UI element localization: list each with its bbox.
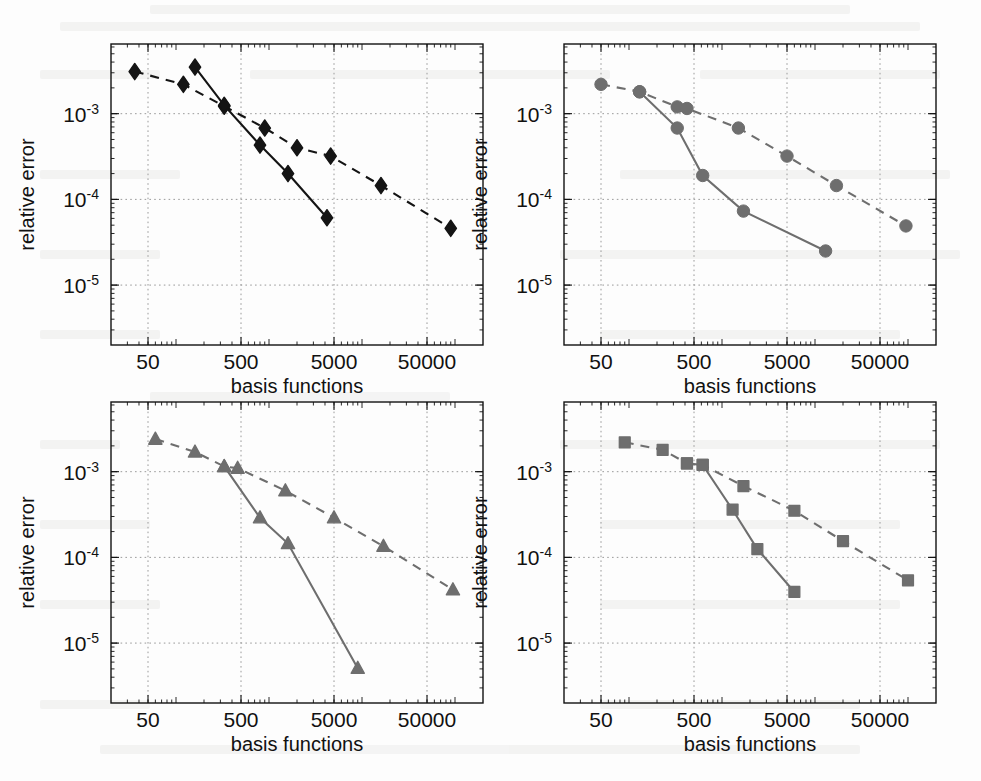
y-tick-label: 10-4 <box>63 544 99 569</box>
x-axis-label: basis functions <box>231 733 363 755</box>
data-point <box>903 575 914 586</box>
series-dashed <box>595 78 912 232</box>
series-path <box>155 439 453 590</box>
data-point <box>377 539 390 551</box>
y-tick-label: 10-5 <box>63 630 99 655</box>
y-tick-label: 10-4 <box>516 186 552 211</box>
data-point <box>789 587 800 598</box>
data-point <box>657 444 668 455</box>
data-point <box>218 460 231 472</box>
gridlines <box>564 44 936 345</box>
y-axis-label: relative error <box>16 496 38 609</box>
y-axis-label: relative error <box>469 496 491 609</box>
y-axis-label: relative error <box>16 138 38 251</box>
data-point <box>819 245 831 257</box>
x-tick-label: 5000 <box>764 708 811 731</box>
data-point <box>259 120 270 136</box>
series-path <box>601 84 906 226</box>
data-point <box>900 220 912 232</box>
x-axis-label: basis functions <box>684 733 816 755</box>
series-solid <box>682 458 800 597</box>
data-point <box>595 78 607 90</box>
gridlines <box>111 402 483 703</box>
data-point <box>325 148 336 164</box>
data-point <box>727 504 738 515</box>
y-tick-labels: 10-310-410-5 <box>63 101 99 297</box>
y-tick-labels: 10-310-410-5 <box>516 459 552 655</box>
series-path <box>640 92 826 251</box>
y-tick-labels: 10-310-410-5 <box>516 101 552 297</box>
y-tick-label: 10-5 <box>63 272 99 297</box>
data-point <box>327 511 340 523</box>
data-point <box>291 140 302 156</box>
series-path <box>224 466 358 668</box>
data-point <box>752 544 763 555</box>
y-tick-label: 10-5 <box>516 272 552 297</box>
y-tick-label: 10-3 <box>516 101 552 126</box>
x-tick-labels: 50500500050000 <box>136 708 456 731</box>
x-tick-label: 500 <box>223 708 258 731</box>
y-tick-labels: 10-310-410-5 <box>63 459 99 655</box>
series-dashed <box>129 63 456 236</box>
data-point <box>696 169 708 181</box>
data-point <box>633 86 645 98</box>
y-axis-label: relative error <box>469 138 491 251</box>
data-point <box>279 484 292 496</box>
data-point <box>149 432 162 444</box>
data-point <box>830 179 842 191</box>
y-tick-label: 10-5 <box>516 630 552 655</box>
data-point <box>697 459 708 470</box>
data-point <box>732 122 744 134</box>
x-tick-label: 50 <box>136 708 159 731</box>
x-tick-label: 50000 <box>851 708 909 731</box>
series-solid <box>633 86 831 258</box>
x-tick-labels: 50500500050000 <box>589 708 909 731</box>
data-point <box>375 177 386 193</box>
x-tick-label: 500 <box>676 708 711 731</box>
data-point <box>178 76 189 92</box>
data-point <box>619 437 630 448</box>
series-dashed <box>619 437 913 586</box>
data-point <box>737 205 749 217</box>
data-point <box>789 505 800 516</box>
data-point <box>781 150 793 162</box>
chart-panel-bottom-left: 5050050005000010-310-410-5basis function… <box>0 358 528 781</box>
series-solid <box>218 460 365 674</box>
data-point <box>129 63 140 79</box>
x-tick-label: 50 <box>589 708 612 731</box>
y-tick-label: 10-3 <box>63 459 99 484</box>
data-point <box>681 102 693 114</box>
series-solid <box>189 59 332 226</box>
y-tick-label: 10-4 <box>516 544 552 569</box>
chart-bottom-right: 5050050005000010-310-410-5basis function… <box>453 358 981 781</box>
figure-root: 5050050005000010-310-410-5basis function… <box>0 0 981 781</box>
chart-panel-bottom-right: 5050050005000010-310-410-5basis function… <box>453 358 981 781</box>
y-tick-label: 10-3 <box>516 459 552 484</box>
y-tick-label: 10-4 <box>63 186 99 211</box>
chart-bottom-left: 5050050005000010-310-410-5basis function… <box>0 358 528 781</box>
data-point <box>671 122 683 134</box>
data-point <box>838 536 849 547</box>
y-tick-label: 10-3 <box>63 101 99 126</box>
data-point <box>682 458 693 469</box>
x-tick-label: 5000 <box>311 708 358 731</box>
data-point <box>351 661 364 673</box>
data-point <box>738 481 749 492</box>
x-tick-label: 50000 <box>398 708 456 731</box>
gridlines <box>111 44 483 345</box>
